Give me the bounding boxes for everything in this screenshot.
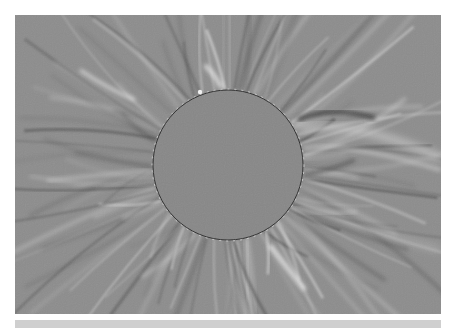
grain-overlay	[15, 15, 441, 314]
corona-svg	[15, 15, 441, 314]
corona-photo	[15, 15, 441, 314]
bottom-strip	[15, 320, 441, 328]
